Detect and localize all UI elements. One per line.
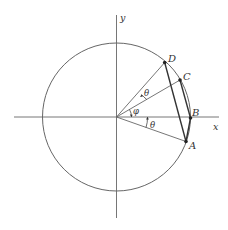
chord-CB [180, 80, 191, 118]
label-theta-bottom: θ [150, 120, 155, 130]
radius-OD [117, 63, 165, 118]
x-axis-label: x [213, 121, 219, 132]
point-D [163, 61, 167, 65]
label-D: D [167, 53, 176, 64]
label-phi: φ [133, 106, 139, 116]
y-axis-label: y [119, 12, 126, 23]
label-A: A [188, 140, 196, 151]
point-A [184, 140, 188, 144]
diagram-canvas: D C B A θ φ θ x y [0, 0, 228, 230]
point-C [178, 78, 182, 82]
label-B: B [191, 107, 199, 118]
label-theta-top: θ [144, 88, 149, 98]
unit-circle-diagram: D C B A θ φ θ x y [0, 0, 228, 230]
label-C: C [183, 71, 191, 82]
